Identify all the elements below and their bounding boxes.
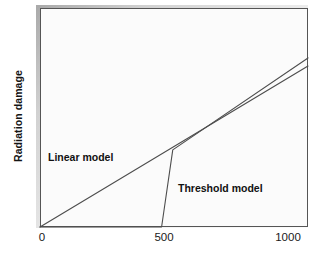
radiation-damage-chart: Radiation damage Linear model Threshold … (0, 0, 322, 258)
x-tick-label-0: 0 (39, 231, 45, 243)
y-axis-label-container: Radiation damage (0, 0, 36, 232)
x-tick-label-500: 500 (154, 231, 173, 243)
x-tick-label-1000: 1000 (275, 231, 301, 243)
plot-panel (40, 8, 308, 227)
linear-model-label: Linear model (48, 151, 113, 163)
threshold-model-label: Threshold model (178, 182, 263, 194)
y-axis-label: Radiation damage (12, 70, 24, 162)
